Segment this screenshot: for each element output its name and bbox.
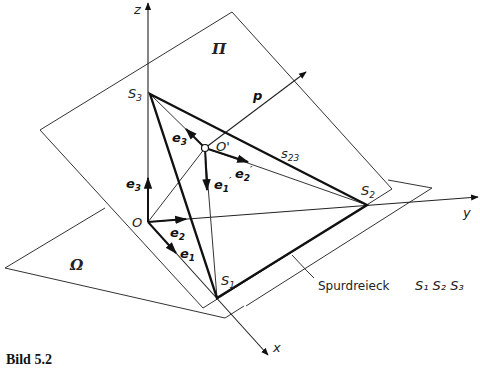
normal-vector-label: p: [252, 88, 262, 103]
vector-e2-label: e2: [170, 225, 185, 242]
normal-vector-p: [205, 72, 306, 148]
edge-s23-label: s23: [281, 146, 300, 163]
normal-line: [148, 148, 205, 222]
point-s3-label: S3: [128, 86, 142, 103]
plane-omega: [5, 208, 244, 318]
vector-e1-prime: [205, 148, 207, 190]
z-axis-label: z: [133, 2, 142, 17]
origin-label: O: [132, 215, 142, 230]
vector-e3-prime-label: e3′: [172, 129, 190, 147]
callout-text: Spurdreieck: [318, 279, 390, 293]
point-o-prime: [202, 145, 209, 152]
x-axis-label: x: [272, 340, 281, 355]
y-axis: [148, 197, 478, 222]
figure-caption: Bild 5.2: [6, 352, 52, 368]
trace-triangle-diagram: z y x O O' Π Ω S3 S2 S1 s23 p e3 e2 e1 e…: [0, 0, 480, 368]
vector-e2-prime-label: e2′: [235, 165, 253, 183]
point-s2-label: S2: [361, 183, 375, 200]
y-axis-label: y: [462, 205, 471, 220]
point-s1-label: S1: [221, 273, 235, 290]
origin-prime-label: O': [216, 139, 230, 154]
plane-pi-label: Π: [211, 40, 227, 58]
plane-omega-label: Ω: [69, 256, 84, 274]
vector-e1-label: e1: [180, 246, 195, 263]
vector-e1-prime-label: e1′: [214, 176, 232, 194]
vector-e3-label: e3: [126, 176, 141, 193]
callout-points: S₁ S₂ S₃: [415, 278, 464, 293]
vector-e2: [148, 219, 186, 222]
